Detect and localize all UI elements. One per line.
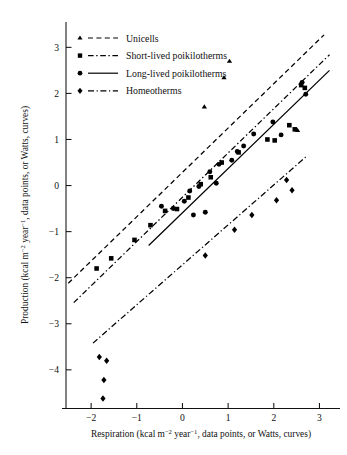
data-point-circle: [203, 210, 208, 215]
axes: [62, 22, 340, 409]
legend: UnicellsShort-lived poikilothermsLong-li…: [77, 33, 227, 97]
data-point-diamond: [289, 187, 294, 194]
data-point-diamond: [100, 395, 105, 402]
data-point-triangle: [202, 104, 207, 108]
y-tick-label: 2: [54, 88, 59, 99]
legend-label: Homeotherms: [126, 85, 182, 96]
x-tick-label: 3: [317, 412, 322, 423]
data-point-circle: [187, 189, 192, 194]
legend-label: Short-lived poikilotherms: [126, 50, 227, 61]
data-point-circle: [300, 80, 305, 85]
x-axis-ticks: −2−10123: [86, 403, 322, 423]
data-point-square: [132, 238, 137, 243]
data-point-square: [148, 223, 153, 228]
y-tick-label: 3: [54, 42, 59, 53]
data-point-circle: [159, 204, 164, 209]
y-tick-label: −3: [49, 318, 59, 329]
data-point-diamond: [232, 227, 237, 234]
legend-marker-square: [78, 53, 82, 57]
x-tick-label: −1: [132, 412, 142, 423]
legend-marker-triangle: [77, 36, 82, 40]
y-tick-label: −4: [49, 364, 59, 375]
data-point-diamond: [97, 354, 102, 361]
y-tick-label: −1: [49, 226, 59, 237]
data-point-square: [265, 137, 270, 142]
data-point-square: [186, 195, 191, 200]
legend-marker-circle: [78, 71, 83, 76]
data-point-diamond: [101, 377, 106, 384]
y-axis-title: Production (kcal m−2 year−1, data points…: [19, 106, 31, 324]
data-point-square: [287, 123, 292, 128]
data-point-square: [303, 86, 308, 91]
x-tick-label: 2: [271, 412, 276, 423]
data-point-diamond: [249, 212, 254, 219]
x-tick-label: 1: [226, 412, 231, 423]
data-point-circle: [270, 120, 275, 125]
data-point-diamond: [203, 252, 208, 259]
legend-label: Unicells: [126, 33, 159, 44]
data-point-circle: [235, 149, 240, 154]
data-point-circle: [171, 206, 176, 211]
data-point-circle: [229, 158, 234, 163]
data-point-square: [272, 138, 277, 143]
data-point-diamond: [274, 197, 279, 204]
data-point-circle: [241, 143, 246, 148]
data-point-square: [109, 256, 114, 261]
y-tick-label: 0: [54, 180, 59, 191]
data-point-circle: [279, 132, 284, 137]
data-point-circle: [191, 213, 196, 218]
fit-line-long-lived-poikilotherms: [149, 70, 330, 245]
y-tick-label: 1: [54, 134, 59, 145]
fit-lines: [68, 35, 329, 343]
data-point-square: [293, 127, 298, 132]
data-point-circle: [207, 169, 212, 174]
data-point-square: [94, 266, 99, 271]
data-point-diamond: [104, 357, 109, 364]
data-point-square: [208, 175, 213, 180]
x-tick-label: −2: [86, 412, 96, 423]
data-point-circle: [196, 184, 201, 189]
fit-line-short-lived-poikilotherms: [74, 55, 330, 303]
data-point-square: [163, 209, 168, 214]
data-point-triangle: [227, 59, 232, 63]
data-point-circle: [182, 199, 187, 204]
figure-container: 3210−1−2−3−4 −2−10123 UnicellsShort-live…: [0, 0, 347, 455]
y-tick-label: −2: [49, 272, 59, 283]
x-axis-title: Respiration (kcal m−2 year−1, data point…: [91, 428, 311, 440]
data-point-circle: [217, 162, 222, 167]
scatter-plot: 3210−1−2−3−4 −2−10123 UnicellsShort-live…: [0, 0, 347, 455]
y-axis-ticks: 3210−1−2−3−4: [49, 42, 72, 376]
data-point-circle: [251, 131, 256, 136]
x-tick-label: 0: [180, 412, 185, 423]
data-point-circle: [303, 92, 308, 97]
data-point-diamond: [284, 177, 289, 184]
data-point-circle: [214, 181, 219, 186]
legend-marker-diamond: [78, 88, 83, 94]
legend-label: Long-lived poikilotherms: [126, 68, 227, 79]
data-points: [94, 59, 308, 402]
